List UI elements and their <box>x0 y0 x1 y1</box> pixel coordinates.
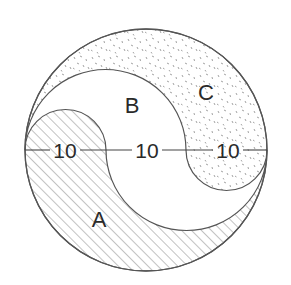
segment-label-1: 10 <box>53 139 76 162</box>
segment-label-3: 10 <box>216 139 239 162</box>
region-b-label: B <box>125 93 140 118</box>
segment-label-2: 10 <box>135 139 158 162</box>
three-region-circle-diagram: 10 10 10 B C A <box>0 0 291 285</box>
region-c-label: C <box>198 80 214 105</box>
region-a-label: A <box>92 207 107 232</box>
